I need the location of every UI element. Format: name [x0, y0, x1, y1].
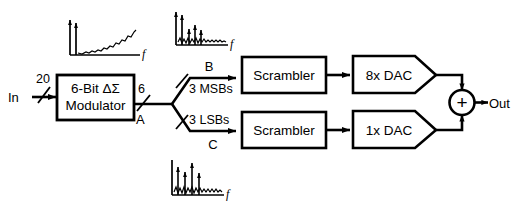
scrambler-top-label: Scrambler — [253, 68, 315, 83]
plot1-noise-shaping-curve — [78, 30, 136, 54]
input-label: In — [8, 90, 19, 105]
msb-bus-label: 3 MSBs — [189, 82, 233, 96]
plot3-axis-label: f — [226, 187, 231, 201]
lsb-bus-label: 3 LSBs — [189, 113, 229, 127]
dac-top-to-sum-wire — [436, 75, 462, 90]
input-bus-width-label: 20 — [36, 72, 50, 86]
plot2-axis-label: f — [230, 37, 235, 51]
plot2-noise-floor — [178, 38, 226, 43]
scrambler-bottom-label: Scrambler — [253, 123, 315, 138]
plus-icon: + — [456, 92, 467, 113]
block-diagram-canvas: In 20 6-Bit ΔΣ Modulator 6 A 3 MSBs B 3 … — [0, 0, 512, 209]
msb-bus-slash — [176, 74, 188, 88]
dac-bottom-to-sum-wire — [436, 115, 462, 130]
modulator-label-line1: 6-Bit ΔΣ — [71, 81, 120, 96]
dac-top-label: 8x DAC — [366, 68, 413, 83]
node-b-label: B — [205, 59, 214, 74]
node-a-label: A — [136, 112, 145, 127]
modulator-output-bus-width-label: 6 — [138, 82, 145, 96]
modulator-label-line2: Modulator — [65, 98, 126, 113]
plot3-noise-floor — [174, 187, 222, 193]
plot-modulator-output-spectrum: f — [70, 20, 147, 61]
plot1-axis-label: f — [142, 47, 147, 61]
input-bus-slash — [38, 87, 50, 103]
node-c-label: C — [208, 137, 217, 152]
plot-lsb-path-spectrum: f — [172, 160, 231, 201]
plot-msb-path-spectrum: f — [176, 12, 235, 51]
output-label: Out — [489, 96, 510, 111]
block-diagram-svg: In 20 6-Bit ΔΣ Modulator 6 A 3 MSBs B 3 … — [0, 0, 512, 209]
dac-bottom-label: 1x DAC — [366, 123, 413, 138]
